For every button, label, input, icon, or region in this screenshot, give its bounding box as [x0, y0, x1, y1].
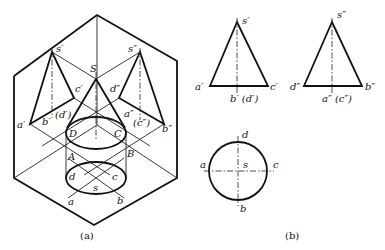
figure-a: S s′ s″ c′ d″ a′ b′ (d′) a″ (c″) b″ D C …: [14, 15, 177, 241]
label-b-prime: b′: [42, 116, 51, 127]
top-view-center-label: s: [243, 159, 248, 170]
label-b-dprime: b″: [162, 123, 172, 134]
label-d-dprime: d″: [110, 83, 120, 94]
side-view-left-label: d″: [290, 81, 300, 92]
label-C: C: [114, 128, 122, 139]
top-view-right-label: c: [273, 159, 279, 170]
front-view-apex-label: s′: [242, 15, 250, 26]
top-view-top-label: d: [242, 129, 248, 140]
label-d: d: [69, 171, 75, 182]
label-c-dprime-paren: (c″): [133, 117, 150, 128]
label-a-prime: a′: [17, 119, 26, 130]
cone-projection-diagram: S s′ s″ c′ d″ a′ b′ (d′) a″ (c″) b″ D C …: [0, 0, 385, 250]
label-c-prime: c′: [75, 83, 84, 94]
label-S: S: [90, 63, 97, 74]
caption-b: (b): [285, 230, 299, 241]
label-c: c: [112, 171, 118, 182]
label-b: b: [117, 195, 123, 206]
front-view-right-label: c′: [270, 81, 279, 92]
label-a: a: [68, 196, 74, 207]
front-view-bottom-label: b′ (d′): [230, 93, 258, 104]
front-view-left-label: a′: [195, 81, 204, 92]
side-view-triangle: [304, 22, 362, 86]
side-view-bottom-label: a″ (c″): [322, 93, 352, 104]
side-view-right-label: b″: [365, 81, 375, 92]
side-view-apex-label: s″: [337, 9, 346, 20]
label-B: B: [126, 148, 134, 159]
label-d-prime-paren: (d′): [55, 109, 72, 120]
label-A: A: [67, 151, 75, 162]
caption-a: (a): [80, 230, 94, 241]
label-s-dprime: s″: [128, 43, 137, 54]
label-s: s: [93, 182, 98, 193]
figure-b: s′ a′ c′ b′ (d′) s″ d″ b″ a″ (c″) d b a …: [195, 9, 375, 241]
label-s-prime: s′: [56, 43, 64, 54]
label-D: D: [68, 128, 77, 139]
top-view-bottom-label: b: [240, 203, 246, 214]
front-view-triangle: [210, 22, 268, 86]
top-view-left-label: a: [200, 159, 206, 170]
